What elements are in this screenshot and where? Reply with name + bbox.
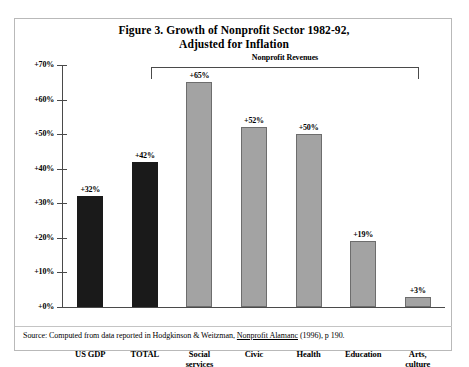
- y-axis-tick-label: +70%: [15, 61, 54, 69]
- bar-value-label: +50%: [281, 123, 337, 132]
- y-axis-tick: [57, 238, 67, 239]
- y-axis-tick-label: +50%: [15, 130, 54, 138]
- bar-group: +65%Socialservices: [177, 57, 221, 307]
- bar-value-label: +65%: [171, 71, 227, 80]
- y-axis-tick: [57, 272, 67, 273]
- y-axis-tick-label: +0%: [15, 303, 54, 311]
- bar-group: +42%TOTAL: [123, 57, 167, 307]
- bar-value-label: +32%: [62, 185, 118, 194]
- x-axis-category-label-line-1: Social: [189, 349, 210, 359]
- x-axis-category-label-line-1: US GDP: [75, 349, 105, 359]
- y-axis-tick: [57, 203, 67, 204]
- source-prefix: Source: Computed from data reported in H…: [23, 331, 237, 340]
- y-axis-tick-label: +10%: [15, 268, 54, 276]
- bar-value-label: +52%: [226, 116, 282, 125]
- plot-area: +0%+10%+20%+30%+40%+50%+60%+70% Nonprofi…: [15, 19, 453, 352]
- x-axis-category-label-line-1: Education: [345, 349, 381, 359]
- source-publication-title: Nonprofit Alamanc: [237, 331, 298, 340]
- x-axis-category-label-line-2: services: [167, 359, 231, 367]
- y-axis-tick: [57, 100, 67, 101]
- y-axis-tick-label: +60%: [15, 96, 54, 104]
- bar-value-label: +42%: [117, 151, 173, 160]
- bar[interactable]: [296, 134, 322, 307]
- bar-group: +50%Health: [287, 57, 331, 307]
- source-divider: [15, 326, 452, 327]
- x-axis-category-label: Arts,culture: [386, 349, 450, 367]
- source-note: Source: Computed from data reported in H…: [23, 331, 443, 341]
- y-axis-tick: [57, 307, 67, 308]
- x-axis-category-label-line-1: TOTAL: [131, 349, 159, 359]
- bar[interactable]: [405, 297, 431, 307]
- bar[interactable]: [350, 241, 376, 307]
- y-axis-tick-label: +30%: [15, 199, 54, 207]
- bar-group: +19%Education: [341, 57, 385, 307]
- bar-value-label: +19%: [335, 230, 391, 239]
- figure-frame: Figure 3. Growth of Nonprofit Sector 198…: [14, 18, 452, 351]
- bar[interactable]: [241, 127, 267, 307]
- bar-value-label: +3%: [390, 286, 446, 295]
- y-axis-tick: [57, 134, 67, 135]
- x-axis-line: [62, 307, 445, 308]
- y-axis-tick-label: +40%: [15, 165, 54, 173]
- y-axis-tick-label: +20%: [15, 234, 54, 242]
- x-axis-category-label-line-1: Arts,: [409, 349, 427, 359]
- y-axis-tick: [57, 169, 67, 170]
- x-axis-category-label-line-1: Health: [297, 349, 321, 359]
- y-axis-tick: [57, 65, 67, 66]
- bar-group: +32%US GDP: [68, 57, 112, 307]
- source-suffix: (1996), p 190.: [298, 331, 345, 340]
- x-axis-category-label-line-1: Civic: [245, 349, 263, 359]
- bar-group: +3%Arts,culture: [396, 57, 440, 307]
- bar[interactable]: [186, 82, 212, 307]
- bar[interactable]: [132, 162, 158, 307]
- bar[interactable]: [77, 196, 103, 307]
- bar-group: +52%Civic: [232, 57, 276, 307]
- x-axis-category-label-line-2: culture: [386, 359, 450, 367]
